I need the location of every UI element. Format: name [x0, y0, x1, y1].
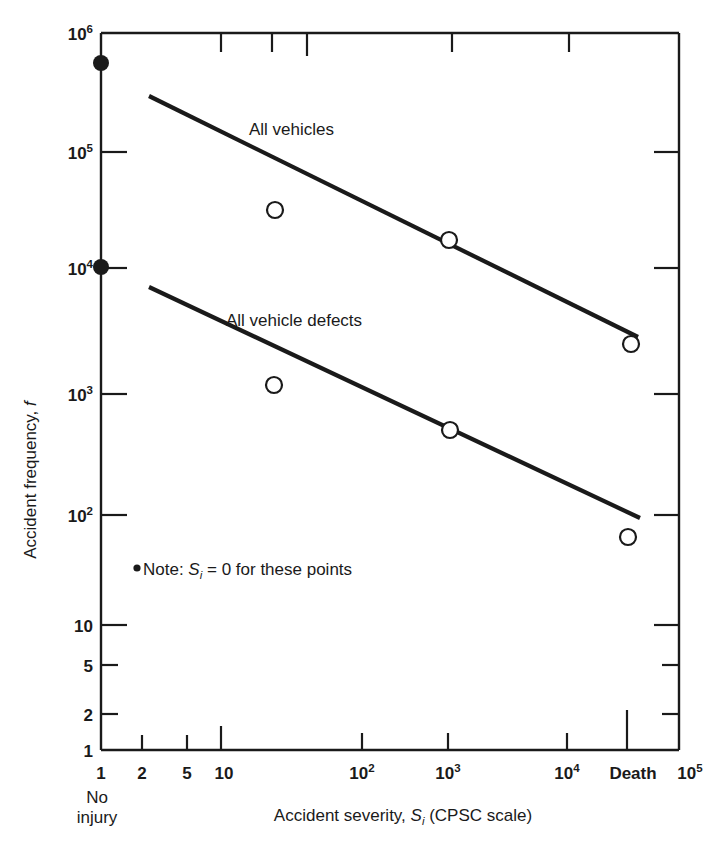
series-all-vehicle-defects: All vehicle defects — [149, 287, 640, 545]
y-axis-ticks-right — [654, 152, 679, 714]
x-label-5: 5 — [182, 764, 191, 783]
x-label-1: 1 — [96, 764, 105, 783]
x-label-1e2-exp: 2 — [368, 762, 374, 774]
y-label-1e3-exp: 3 — [87, 384, 93, 396]
x-axis-ticks-top — [221, 33, 569, 56]
y-axis-title-text: Accident frequency, — [21, 406, 40, 559]
x-label-1e4-base: 10 — [554, 764, 573, 783]
x-label-1e2: 102 — [349, 762, 374, 783]
trend-line-all-vehicles — [149, 96, 638, 337]
data-point-all-vehicles-1 — [267, 202, 283, 218]
accident-frequency-severity-chart: 106 105 104 103 102 10 5 2 1 1 2 5 10 — [0, 0, 718, 850]
x-axis-ticks — [142, 710, 627, 750]
x-label-death: Death — [609, 764, 656, 783]
y-label-1e4-exp: 4 — [87, 258, 94, 270]
x-label-1e3-exp: 3 — [454, 762, 460, 774]
x-axis-title-symbol: S — [411, 806, 423, 825]
y-label-1e4: 104 — [68, 258, 94, 279]
x-axis-tick-labels: 1 2 5 10 102 103 104 Death 105 — [96, 762, 703, 783]
y-label-1e6-exp: 6 — [87, 23, 93, 35]
x-label-1e4-exp: 4 — [573, 762, 580, 774]
x-label-2: 2 — [137, 764, 146, 783]
x-axis-title-suffix: (CPSC scale) — [424, 806, 532, 825]
plot-frame — [101, 33, 679, 750]
corner-note-line-1: No — [86, 788, 108, 807]
data-point-all-vehicle-defects-1 — [266, 377, 282, 393]
x-label-1e3-base: 10 — [435, 764, 454, 783]
note-suffix: = 0 for these points — [202, 560, 352, 579]
y-label-10: 10 — [74, 617, 93, 636]
note-symbol: S — [188, 560, 200, 579]
y-label-1e3: 103 — [68, 384, 93, 405]
data-point-all-vehicles-2 — [441, 232, 457, 248]
y-axis-title-symbol: f — [21, 399, 40, 406]
y-label-1e2-exp: 2 — [87, 505, 93, 517]
y-label-1e6-base: 10 — [68, 25, 87, 44]
note-prefix: Note: — [143, 560, 188, 579]
y-label-1e5: 105 — [68, 142, 94, 163]
x-axis-title: Accident severity, Si (CPSC scale) — [274, 806, 532, 827]
data-point-all-vehicle-defects-3 — [620, 529, 636, 545]
x-label-10: 10 — [215, 764, 234, 783]
y-label-5: 5 — [84, 657, 93, 676]
x-label-1e4: 104 — [554, 762, 580, 783]
x-label-1e5: 105 — [677, 762, 703, 783]
chart-page: 106 105 104 103 102 10 5 2 1 1 2 5 10 — [0, 0, 718, 850]
series-all-vehicles: All vehicles — [149, 96, 639, 352]
note-annotation: Note: Si = 0 for these points — [133, 560, 352, 581]
note-text: Note: Si = 0 for these points — [143, 560, 352, 581]
y-label-1e2: 102 — [68, 505, 93, 526]
data-point-zero-severity-defects — [93, 259, 109, 275]
y-label-2: 2 — [84, 706, 93, 725]
x-label-1e3: 103 — [435, 762, 460, 783]
trend-line-all-vehicle-defects — [149, 287, 640, 518]
data-point-all-vehicle-defects-2 — [442, 422, 458, 438]
x-label-1e2-base: 10 — [349, 764, 368, 783]
data-point-zero-severity-all-vehicles — [93, 55, 109, 71]
y-label-1e6: 106 — [68, 23, 93, 44]
y-axis-ticks — [101, 152, 127, 714]
y-label-1e5-base: 10 — [68, 144, 87, 163]
y-axis-title: Accident frequency, f — [21, 399, 40, 559]
data-point-all-vehicles-3 — [623, 336, 639, 352]
y-label-1e3-base: 10 — [68, 386, 87, 405]
x-label-1e5-base: 10 — [677, 764, 696, 783]
y-axis-tick-labels: 106 105 104 103 102 10 5 2 1 — [68, 23, 94, 761]
y-label-1e2-base: 10 — [68, 507, 87, 526]
x-label-1e5-exp: 5 — [696, 762, 703, 774]
y-label-1e5-exp: 5 — [87, 142, 94, 154]
y-label-1: 1 — [84, 742, 93, 761]
series-label-all-vehicles: All vehicles — [249, 120, 334, 139]
series-label-all-vehicle-defects: All vehicle defects — [226, 311, 362, 330]
x-axis-title-text: Accident severity, — [274, 806, 411, 825]
y-label-1e4-base: 10 — [68, 260, 87, 279]
corner-note-line-2: injury — [77, 808, 118, 827]
x-axis-corner-note: No injury — [77, 788, 118, 827]
note-bullet-icon — [133, 564, 140, 571]
